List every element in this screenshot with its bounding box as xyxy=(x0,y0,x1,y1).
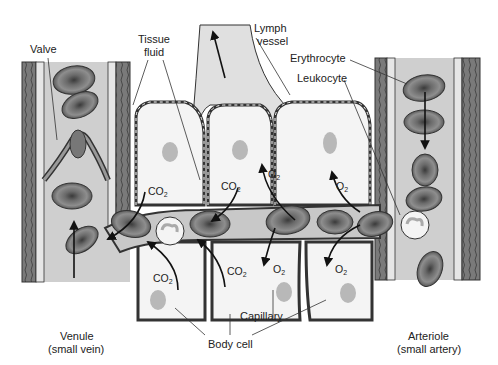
label-arteriole-line1: Arteriole xyxy=(408,330,449,343)
lower-body-cells xyxy=(138,242,372,320)
label-o2-mid-upper: O2 xyxy=(268,168,280,184)
label-venule-line2: (small vein) xyxy=(48,343,104,356)
label-lymph-vessel-line2: vessel xyxy=(257,35,288,48)
label-o2-right-upper: O2 xyxy=(336,180,348,196)
label-valve: Valve xyxy=(30,43,57,56)
label-venule-line1: Venule xyxy=(60,330,94,343)
label-capillary: Capillary xyxy=(240,310,283,323)
label-tissue-fluid-line2: fluid xyxy=(144,46,164,59)
label-co2-left-upper: CO2 xyxy=(148,185,168,201)
label-o2-mid-lower: O2 xyxy=(273,263,285,279)
label-o2-right-lower: O2 xyxy=(335,263,347,279)
label-co2-mid-lower: CO2 xyxy=(227,265,247,281)
label-co2-left-lower: CO2 xyxy=(153,272,173,288)
label-body-cell: Body cell xyxy=(208,338,253,351)
label-erythrocyte: Erythrocyte xyxy=(290,52,346,65)
label-co2-mid-upper: CO2 xyxy=(221,180,241,196)
label-leukocyte: Leukocyte xyxy=(297,72,347,85)
label-tissue-fluid-line1: Tissue xyxy=(138,33,170,46)
label-arteriole-line2: (small artery) xyxy=(397,343,461,356)
label-lymph-vessel-line1: Lymph xyxy=(254,22,287,35)
